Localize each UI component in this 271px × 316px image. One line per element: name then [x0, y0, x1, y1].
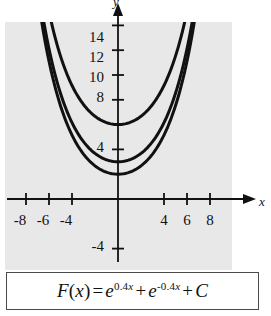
- formula-term1-base: e: [105, 280, 114, 301]
- figure-container: y x 14 12 10 8 4 -4 -8 -6 -4 4 6 8 F(x)=…: [0, 0, 271, 316]
- formula-term2-exponent: -0.4x: [157, 280, 180, 292]
- formula-x: x: [75, 280, 84, 301]
- x-tick-label-8: 8: [198, 212, 222, 229]
- x-axis-arrowhead: [243, 194, 256, 204]
- y-axis-letter: y: [113, 0, 119, 10]
- formula-plus-1: +: [133, 280, 148, 301]
- formula-constant: C: [195, 280, 208, 301]
- formula-term1-exponent: 0.4x: [114, 280, 133, 292]
- graph-canvas: [0, 0, 271, 316]
- formula-box: F(x)=e0.4x+e-0.4x+C: [6, 272, 259, 310]
- x-tick-label-6: 6: [175, 212, 199, 229]
- y-tick-label-4: 4: [78, 139, 104, 156]
- y-tick-label-12: 12: [78, 49, 104, 66]
- formula-term2-base: e: [148, 280, 157, 301]
- x-tick-label-minus-6: -6: [31, 212, 55, 229]
- x-tick-label-4: 4: [152, 212, 176, 229]
- formula-text: F(x)=e0.4x+e-0.4x+C: [57, 280, 208, 302]
- y-tick-label-14: 14: [78, 29, 104, 46]
- formula-equals: =: [90, 280, 105, 301]
- y-tick-label-minus-4: -4: [74, 238, 104, 255]
- formula-term1-exp-num: 0.4: [114, 280, 128, 292]
- formula-plus-2: +: [180, 280, 195, 301]
- x-tick-label-minus-4: -4: [54, 212, 78, 229]
- y-tick-label-10: 10: [78, 69, 104, 86]
- x-axis-letter: x: [259, 194, 265, 210]
- formula-f: F: [57, 280, 69, 301]
- y-tick-label-8: 8: [78, 89, 104, 106]
- formula-term2-exp-num: -0.4: [157, 280, 175, 292]
- x-tick-label-minus-8: -8: [8, 212, 32, 229]
